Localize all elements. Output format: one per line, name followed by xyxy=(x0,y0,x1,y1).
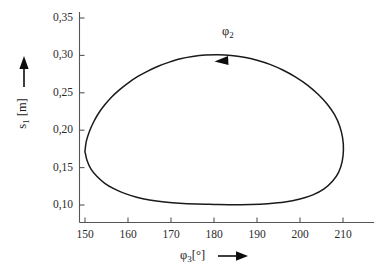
x-tick-label: 180 xyxy=(192,229,236,241)
x-tick-label: 160 xyxy=(106,229,150,241)
x-tick-label: 190 xyxy=(235,229,279,241)
x-tick-label: 200 xyxy=(278,229,322,241)
x-tick-label: 170 xyxy=(149,229,193,241)
x-axis-label: φ3[°] xyxy=(180,248,205,263)
y-tick-label: 0,10 xyxy=(28,199,73,211)
y-axis-label-group: s1 [m] xyxy=(6,60,36,170)
chart-figure: 0,100,150,200,250,300,35 150160170180190… xyxy=(0,0,388,274)
phi2-annotation-label: φ2 xyxy=(222,24,234,39)
x-axis-label-group: φ3[°] xyxy=(150,248,290,270)
y-tick-label: 0,35 xyxy=(28,12,73,24)
y-axis-label: s1 [m] xyxy=(15,69,30,159)
x-tick-label: 210 xyxy=(321,229,365,241)
x-tick-label: 150 xyxy=(63,229,107,241)
